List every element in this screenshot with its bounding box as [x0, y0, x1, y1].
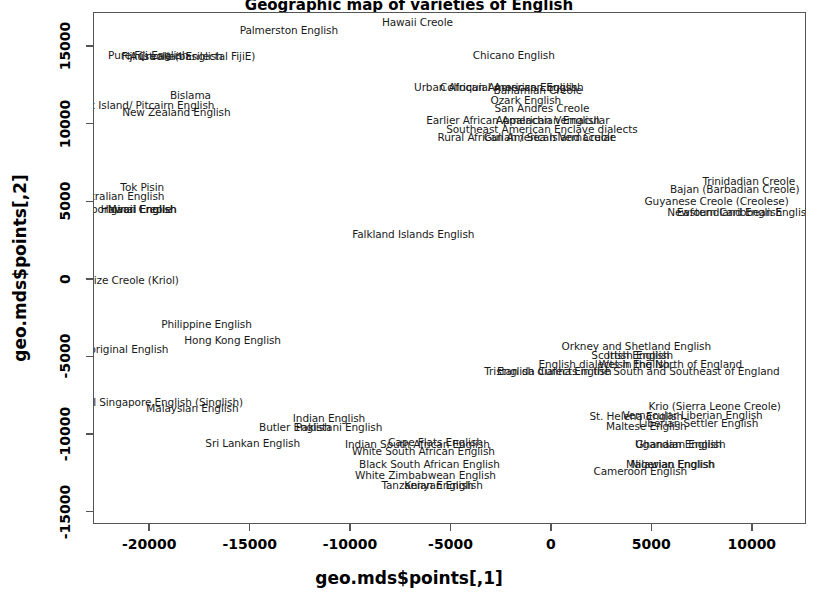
data-point-label: San Andres Creole — [494, 102, 589, 113]
chart-canvas: Geographic map of varieties of English P… — [0, 0, 819, 604]
data-point-label: English dialects in the South and Southe… — [497, 366, 780, 377]
plot-area: Palmerston EnglishHawaii CreolePure Fiji… — [93, 12, 806, 524]
data-point-label: Ugandan English — [635, 438, 722, 449]
x-axis-tick — [249, 524, 251, 531]
data-point-label: Eastern Caribbean English — [677, 207, 806, 218]
data-point-label: Tanzanian English — [381, 479, 473, 490]
data-point-label: Belize Creole (Kriol) — [93, 275, 179, 286]
data-point-label: Palmerston English — [240, 25, 338, 36]
x-axis-tick-label: 10000 — [727, 536, 776, 552]
x-axis-tick — [450, 524, 452, 531]
x-axis-title: geo.mds$points[,1] — [315, 568, 503, 588]
data-point-label: Pakistani English — [296, 422, 382, 433]
y-axis-tick-label: 5000 — [57, 182, 73, 221]
data-point-label: Australian English — [93, 191, 164, 202]
y-axis-tick-label: -10000 — [57, 407, 73, 462]
data-point-label: Sri Lankan English — [205, 438, 300, 449]
y-axis-tick — [86, 511, 93, 513]
data-point-label: Malaysian English — [146, 403, 238, 414]
x-axis-tick-label: 5000 — [632, 536, 671, 552]
y-axis-title: geo.mds$points[,2] — [10, 174, 30, 362]
data-point-label: Fiji Creole (basilectal FijiE) — [122, 51, 256, 62]
y-axis-tick-label: 0 — [57, 274, 73, 284]
y-axis-tick — [86, 201, 93, 203]
y-axis-tick — [86, 356, 93, 358]
x-axis-tick — [148, 524, 150, 531]
data-point-label: Aboriginal English — [93, 344, 168, 355]
data-point-label: Gullah / Sea Island Creole — [484, 132, 616, 143]
y-axis-tick — [86, 278, 93, 280]
data-point-label: Hong Kong English — [184, 335, 281, 346]
y-axis-tick — [86, 433, 93, 435]
x-axis-tick — [349, 524, 351, 531]
y-axis-tick-label: 10000 — [57, 99, 73, 148]
x-axis-tick-label: -5000 — [428, 536, 473, 552]
data-point-label: Philippine English — [161, 319, 252, 330]
data-point-label: Maltese English — [606, 420, 687, 431]
x-axis-tick — [550, 524, 552, 531]
data-point-label: Hawaii Creole — [382, 17, 453, 28]
data-point-label: White South African English — [352, 445, 495, 456]
y-axis-tick — [86, 123, 93, 125]
x-axis-tick-label: 0 — [546, 536, 556, 552]
data-point-label: Guyanese Creole (Creolese) — [645, 195, 789, 206]
x-axis-tick-label: -20000 — [122, 536, 177, 552]
y-axis-tick-label: -5000 — [57, 334, 73, 379]
data-point-label: Bajan (Barbadian Creole) — [670, 184, 800, 195]
x-axis-tick — [751, 524, 753, 531]
data-point-label: New Zealand English — [122, 107, 230, 118]
x-axis-tick-label: -10000 — [323, 536, 378, 552]
data-point-label: Falkland Islands English — [352, 229, 474, 240]
y-axis-tick-label: -15000 — [57, 484, 73, 539]
y-axis-tick-label: 15000 — [57, 22, 73, 71]
data-point-label: Bahamian Creole — [494, 85, 582, 96]
data-point-label: Hawaii Creole — [101, 204, 172, 215]
x-axis-tick-label: -15000 — [222, 536, 277, 552]
y-axis-tick — [86, 45, 93, 47]
data-point-label: Chicano English — [473, 50, 555, 61]
x-axis-tick — [651, 524, 653, 531]
data-point-label: Cameroon English — [593, 466, 687, 477]
